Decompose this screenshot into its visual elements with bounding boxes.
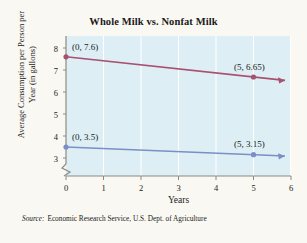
annotation-nonfat-milk-end: (5, 3.15) <box>234 139 265 149</box>
annotation-nonfat-milk-start: (0, 3.5) <box>72 132 98 142</box>
data-point-nonfat-milk-0 <box>63 144 68 149</box>
source-text: Economic Research Service, U.S. Dept. of… <box>47 214 206 223</box>
data-point-whole-milk-5 <box>251 74 256 79</box>
source-prefix: Source: <box>22 214 44 223</box>
data-point-whole-milk-0 <box>63 54 68 59</box>
chart-figure-inner: Whole Milk vs. Nonfat Milk Average Consu… <box>6 4 301 239</box>
x-axis-label: Years <box>66 195 291 205</box>
x-tick-label-2: 2 <box>139 183 143 193</box>
x-axis-ticks <box>66 176 291 180</box>
x-tick-label-6: 6 <box>289 183 293 193</box>
plot-area: 8 7 6 5 4 3 0 1 2 3 4 5 6 <box>6 4 301 204</box>
annotation-whole-milk-start: (0, 7.6) <box>72 42 98 52</box>
x-tick-label-5: 5 <box>251 183 255 193</box>
x-tick-label-4: 4 <box>214 183 219 193</box>
x-tick-label-3: 3 <box>176 183 180 193</box>
source-note: Source:Economic Research Service, U.S. D… <box>22 214 302 223</box>
chart-figure: Whole Milk vs. Nonfat Milk Average Consu… <box>0 0 307 243</box>
data-point-nonfat-milk-5 <box>251 152 256 157</box>
y-tick-label-5: 5 <box>54 110 58 120</box>
y-tick-label-4: 4 <box>54 132 59 142</box>
y-tick-label-3: 3 <box>54 154 58 164</box>
x-tick-label-0: 0 <box>64 183 68 193</box>
annotation-whole-milk-end: (5, 6.65) <box>234 62 265 72</box>
y-tick-label-6: 6 <box>54 88 58 98</box>
y-tick-label-7: 7 <box>54 66 58 76</box>
x-tick-label-1: 1 <box>101 183 105 193</box>
y-tick-label-8: 8 <box>54 44 58 54</box>
